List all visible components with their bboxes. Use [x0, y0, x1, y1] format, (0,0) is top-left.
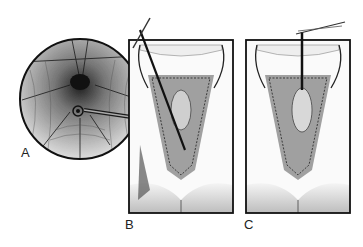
- panel-label-c: C: [244, 218, 253, 231]
- surgical-figure: A B C: [0, 0, 363, 247]
- panel-b: [129, 18, 233, 213]
- panel-label-a: A: [21, 146, 30, 159]
- illustration-canvas: [0, 0, 363, 247]
- panel-c: [246, 22, 350, 213]
- panel-label-b: B: [125, 218, 134, 231]
- panel-a-inset: [20, 39, 140, 160]
